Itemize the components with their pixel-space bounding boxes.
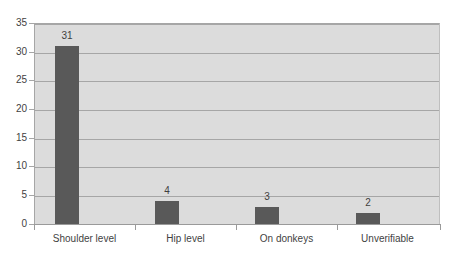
category-label-unverifiable: Unverifiable <box>337 233 438 244</box>
category-label-on-donkeys: On donkeys <box>236 233 337 244</box>
gridline-20 <box>34 110 439 111</box>
y-axis-label-15: 15 <box>3 133 27 143</box>
y-tick-30 <box>29 52 34 53</box>
y-axis-label-5: 5 <box>3 190 27 200</box>
y-axis-label-15-wrap: 15 <box>0 133 27 143</box>
x-tick-0 <box>34 225 35 230</box>
gridline-25 <box>34 81 439 82</box>
y-axis-label-0-wrap: 0 <box>0 219 27 229</box>
category-label-shoulder-level: Shoulder level <box>34 233 135 244</box>
y-tick-20 <box>29 109 34 110</box>
x-tick-2 <box>236 225 237 230</box>
y-axis-label-25: 25 <box>3 75 27 85</box>
bar-value-on-donkeys: 3 <box>247 192 287 202</box>
gridline-5 <box>34 196 439 197</box>
y-axis-label-25-wrap: 25 <box>0 75 27 85</box>
bar-value-unverifiable: 2 <box>348 198 388 208</box>
y-axis-label-35-wrap: 35 <box>0 18 27 28</box>
y-tick-5 <box>29 195 34 196</box>
bar-value-hip-level: 4 <box>147 186 187 196</box>
y-axis-label-20-wrap: 20 <box>0 104 27 114</box>
y-axis-label-10: 10 <box>3 161 27 171</box>
gridline-15 <box>34 139 439 140</box>
y-axis-label-35: 35 <box>3 18 27 28</box>
y-axis-label-20: 20 <box>3 104 27 114</box>
y-axis-label-10-wrap: 10 <box>0 161 27 171</box>
x-tick-1 <box>135 225 136 230</box>
bar-value-shoulder-level: 31 <box>47 31 87 41</box>
plot-area <box>34 23 440 224</box>
y-axis-label-0: 0 <box>3 219 27 229</box>
x-axis-line <box>34 224 441 225</box>
y-axis-label-30-wrap: 30 <box>0 47 27 57</box>
gridline-10 <box>34 167 439 168</box>
gridline-35 <box>34 24 439 25</box>
bar-unverifiable[interactable] <box>356 213 380 225</box>
y-axis-line <box>34 23 35 225</box>
category-label-hip-level: Hip level <box>135 233 236 244</box>
gridline-30 <box>34 53 439 54</box>
bar-on-donkeys[interactable] <box>255 207 279 224</box>
y-axis-label-5-wrap: 5 <box>0 190 27 200</box>
y-tick-35 <box>29 23 34 24</box>
x-tick-3 <box>337 225 338 230</box>
x-tick-4 <box>440 225 441 230</box>
bar-shoulder-level[interactable] <box>55 46 79 224</box>
bar-hip-level[interactable] <box>155 201 179 224</box>
y-tick-25 <box>29 80 34 81</box>
y-tick-15 <box>29 138 34 139</box>
y-tick-10 <box>29 166 34 167</box>
y-axis-label-30: 30 <box>3 47 27 57</box>
bar-chart: 35 30 25 20 15 10 5 0 31 4 3 2 Shoulder … <box>0 0 457 260</box>
